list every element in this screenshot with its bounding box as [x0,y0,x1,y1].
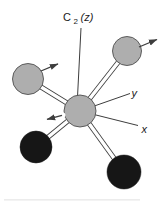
black-atom-lower-right [107,155,141,189]
cropped-caption-remnant [4,199,140,201]
c2-axis-label-element: C [63,11,71,23]
molecule-diagram: C 2 (z) y x [0,0,167,202]
displacement-arrow-upper-right [139,40,157,48]
c2-axis-label-suffix: (z) [81,11,94,23]
c2-axis-line [78,28,82,97]
displacement-arrow-upper-left [41,64,58,71]
gray-atom-upper-left [13,64,44,95]
central-atom [64,95,96,127]
c2-axis-label-subscript: 2 [74,17,79,26]
black-atom-lower-left [20,131,52,163]
displacement-arrow-central [45,115,63,120]
gray-atom-upper-right [113,37,142,66]
x-axis-label: x [141,123,148,135]
c2-axis-label: C 2 (z) [63,11,94,26]
y-axis-label: y [131,87,139,99]
